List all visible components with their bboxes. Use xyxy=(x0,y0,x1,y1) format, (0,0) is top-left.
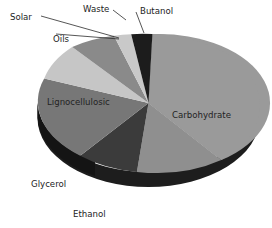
pie-chart-figure: Solar Waste Butanol Oils Lignocellulosic… xyxy=(0,0,272,228)
label-carbohydrate: Carbohydrate xyxy=(172,110,231,120)
leader-line-waste xyxy=(113,10,126,20)
label-oils: Oils xyxy=(53,34,70,44)
label-solar: Solar xyxy=(10,12,32,22)
label-glycerol: Glycerol xyxy=(31,179,66,189)
pie-chart-svg: Solar Waste Butanol Oils Lignocellulosic… xyxy=(0,0,272,228)
label-lignocellulosic: Lignocellulosic xyxy=(47,97,110,107)
label-waste: Waste xyxy=(83,4,109,14)
label-butanol: Butanol xyxy=(140,6,173,16)
label-ethanol: Ethanol xyxy=(73,209,106,219)
